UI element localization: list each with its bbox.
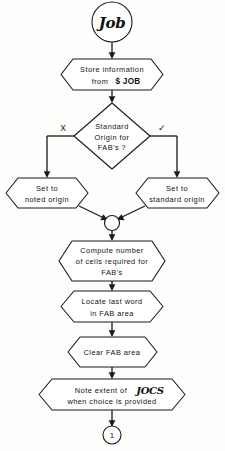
set-noted-origin-line2: noted origin xyxy=(25,195,69,204)
arrow-head-icon xyxy=(109,330,116,337)
store-information-line2-prefix: from xyxy=(92,77,109,86)
arrow-head-icon xyxy=(109,234,116,241)
edge-clear-to-note xyxy=(109,367,116,379)
edge-locate-to-clear xyxy=(109,322,116,337)
store-information-hexagon xyxy=(61,59,163,90)
arrow-head-icon xyxy=(109,96,116,103)
branch-label-no: X xyxy=(60,123,66,133)
compute-cells-line1: Compute number xyxy=(80,246,143,255)
node-clear-fab-area[interactable]: Clear FAB area xyxy=(68,337,157,367)
flowchart-canvas: Job Store information from $ JOB Standar… xyxy=(0,0,225,451)
decision-line3: FAB's ? xyxy=(98,143,126,152)
edge-standard-to-junction xyxy=(116,206,145,220)
store-information-line2-value: $ JOB xyxy=(115,77,140,86)
set-noted-origin-line1: Set to xyxy=(36,184,58,193)
note-extent-line2: when choice is provided xyxy=(66,397,156,406)
note-extent-line1-prefix: Note extent of xyxy=(75,386,128,395)
junction-circle xyxy=(105,216,120,231)
start-node-job[interactable]: Job xyxy=(92,2,132,42)
edge-junction-to-compute xyxy=(109,231,116,242)
node-set-standard-origin[interactable]: Set to standard origin xyxy=(136,178,219,208)
node-locate-last-word[interactable]: Locate last word in FAB area xyxy=(61,291,163,322)
start-label: Job xyxy=(96,14,126,32)
edge-noted-to-junction xyxy=(79,206,108,220)
end-connector-1[interactable]: 1 xyxy=(103,426,121,444)
node-compute-cells[interactable]: Compute number of cells required for FAB… xyxy=(59,241,165,281)
set-standard-origin-line2: standard origin xyxy=(149,195,205,204)
clear-fab-area-line1: Clear FAB area xyxy=(84,348,141,357)
edge-store-to-decision xyxy=(109,90,116,103)
decision-line2: Origin for xyxy=(95,133,130,142)
arrow-head-icon xyxy=(109,372,116,379)
connector-label: 1 xyxy=(110,431,115,440)
node-note-extent[interactable]: Note extent of JOCS when choice is provi… xyxy=(39,379,185,410)
flowchart-page: Job Store information from $ JOB Standar… xyxy=(0,0,225,451)
decision-line1: Standard xyxy=(95,122,129,131)
node-set-noted-origin[interactable]: Set to noted origin xyxy=(6,178,88,208)
edge-compute-to-locate xyxy=(109,281,116,291)
arrow-head-icon xyxy=(109,52,116,59)
compute-cells-line3: FAB's xyxy=(101,268,122,277)
arrow-head-icon xyxy=(174,171,181,178)
edge-start-to-store xyxy=(109,42,116,59)
edge-decision-yes xyxy=(150,136,180,178)
set-standard-origin-line1: Set to xyxy=(166,184,188,193)
edge-decision-no xyxy=(44,136,74,178)
note-extent-line1-script: JOCS xyxy=(134,385,164,396)
arrow-head-icon xyxy=(44,171,51,178)
locate-last-word-line2: in FAB area xyxy=(90,309,134,318)
node-standard-origin-decision[interactable]: Standard Origin for FAB's ? xyxy=(74,103,150,169)
branch-label-yes: ✓ xyxy=(158,123,166,133)
merge-junction xyxy=(105,216,120,231)
locate-last-word-line1: Locate last word xyxy=(81,297,142,306)
node-store-information[interactable]: Store information from $ JOB xyxy=(61,59,163,90)
edge-note-to-connector xyxy=(109,410,116,427)
store-information-line1: Store information xyxy=(80,65,144,74)
arrow-head-icon xyxy=(109,284,116,291)
compute-cells-line2: of cells required for xyxy=(76,257,148,266)
